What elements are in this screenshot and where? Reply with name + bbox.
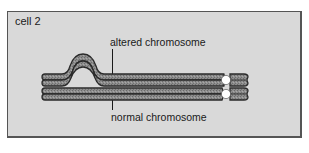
chromosome-diagram xyxy=(0,0,309,153)
normal-centromere xyxy=(221,89,230,98)
altered-centromere xyxy=(221,75,230,84)
normal-chromosome xyxy=(42,88,248,100)
normal-chromatid-lower xyxy=(42,94,224,100)
normal-chromatid-upper xyxy=(42,88,224,94)
altered-chromosome xyxy=(42,54,248,86)
